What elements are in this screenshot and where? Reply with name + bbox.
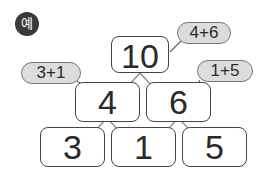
hint-bubble-middle-right: 1+5 (197, 60, 253, 82)
hint-bubble-top: 4+6 (177, 22, 231, 44)
pyramid-middle-box-right: 6 (146, 82, 211, 122)
pyramid-middle-box-left: 4 (75, 82, 140, 122)
hint-bubble-middle-left: 3+1 (21, 62, 81, 84)
pyramid-bottom-box-2: 1 (111, 127, 176, 167)
pyramid-top-box: 10 (111, 36, 169, 73)
pyramid-bottom-box-1: 3 (40, 127, 105, 167)
pyramid-bottom-box-3: 5 (182, 127, 247, 167)
